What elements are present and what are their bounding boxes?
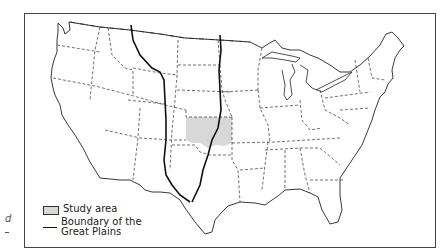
study-area <box>186 117 232 148</box>
map-legend: Study area Boundary of the Great Plains <box>43 204 142 239</box>
lake-superior <box>262 52 300 62</box>
lake-huron-erie <box>300 65 352 92</box>
boundary-label: Boundary of the Great Plains <box>61 217 142 237</box>
boundary-label-line2: Great Plains <box>61 227 142 237</box>
legend-study-area: Study area <box>43 204 142 215</box>
study-area-swatch <box>43 206 59 215</box>
boundary-line-swatch <box>43 227 57 228</box>
canada-border <box>70 22 250 42</box>
lake-michigan <box>282 64 295 100</box>
legend-boundary: Boundary of the Great Plains <box>43 217 142 237</box>
state-lines <box>53 27 385 202</box>
study-area-label: Study area <box>63 204 117 214</box>
